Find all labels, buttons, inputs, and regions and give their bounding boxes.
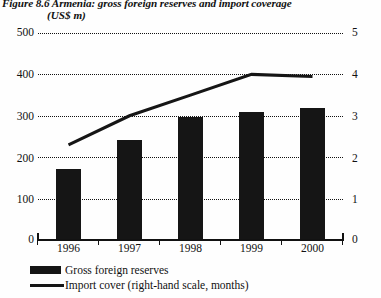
y-right-tick-3: 3 (352, 111, 376, 123)
y-axis-right-ticks: 5 4 3 2 1 0 (352, 33, 378, 240)
plot-area (38, 33, 343, 240)
x-label-1997: 1997 (99, 242, 160, 255)
legend-bar-swatch-icon (30, 266, 61, 274)
figure-subtitle: (US$ m) (47, 9, 86, 21)
x-label-2000: 2000 (282, 242, 343, 255)
import-cover-line (38, 33, 343, 240)
y-axis-left-ticks: 500 400 300 200 100 0 (0, 33, 34, 240)
y-right-tick-1: 1 (352, 194, 376, 206)
page-title: Figure 8.6 Armenia: gross foreign reserv… (2, 0, 292, 9)
y-left-tick-200: 200 (0, 153, 34, 165)
legend-label-import-cover: Import cover (right-hand scale, months) (65, 278, 249, 293)
y-left-tick-300: 300 (0, 111, 34, 123)
y-left-tick-100: 100 (0, 194, 34, 206)
chart-legend: Gross foreign reserves Import cover (rig… (30, 263, 350, 295)
x-label-1998: 1998 (160, 242, 221, 255)
y-left-tick-400: 400 (0, 69, 34, 81)
legend-line-swatch-icon (30, 284, 64, 287)
legend-label-gross-foreign-reserves: Gross foreign reserves (65, 263, 168, 278)
y-right-tick-0: 0 (352, 234, 376, 246)
x-label-1999: 1999 (221, 242, 282, 255)
y-left-tick-500: 500 (0, 27, 34, 39)
y-right-tick-2: 2 (352, 153, 376, 165)
x-label-1996: 1996 (38, 242, 99, 255)
y-right-tick-4: 4 (352, 69, 376, 81)
figure-container: Figure 8.6 Armenia: gross foreign reserv… (0, 0, 381, 298)
y-right-tick-5: 5 (352, 27, 376, 39)
y-left-tick-0: 0 (0, 234, 34, 246)
x-axis-labels: 1996 1997 1998 1999 2000 (38, 242, 343, 258)
figure-title-block: Figure 8.6 Armenia: gross foreign reserv… (0, 0, 381, 25)
